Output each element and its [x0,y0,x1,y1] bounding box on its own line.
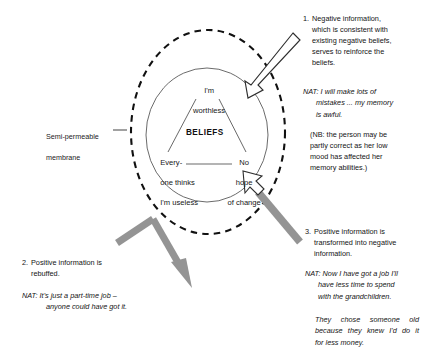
nat-3: NAT: Now I have got a job I'll have less… [305,268,429,302]
belief-right-line3: of change [227,198,260,207]
belief-right: No hope of change [218,148,266,209]
nat-3-line3: with the grandchildren. [318,292,391,301]
note-1-line4: serves to reinforce the [312,47,384,56]
nat-3-line1: Now I have got a job I'll [323,269,398,278]
nb-line1: (NB: the person may be [310,130,387,139]
note-3-number: 3. [305,227,311,238]
nat-2-line1: It's just a part-time job – [40,291,117,300]
nat-2-tag: NAT: [22,291,38,300]
nat-4-line2: because they knew I'd do it [315,325,419,336]
nat-4: They chose someone old because they knew… [315,314,419,348]
note-2: 2. Positive information is rebuffed. [22,258,142,280]
cbt-belief-diagram-page: { "diagram": { "title_semantic": "semi-p… [0,0,445,363]
note-3-line2: transformed into negative [314,238,396,247]
belief-top: I'm worthless [183,76,231,116]
arrow-negative-information-inward [245,33,300,98]
note-1: 1. Negative information, which is consis… [303,14,418,69]
belief-left-line3: I'm useless [160,198,198,207]
nat-1-line1: I will make lots of [321,87,377,96]
belief-left-line2: one thinks [160,178,195,187]
semi-permeable-membrane-label: Semi-permeable membrane [42,122,114,164]
nat-1-line3: is awful. [316,110,342,119]
nat-2: NAT: It's just a part-time job – anyone … [22,290,182,313]
note-1-line3: existing negative beliefs, [312,36,392,45]
belief-top-line2: worthless [193,106,225,115]
membrane-label-line1: Semi-permeable [46,132,99,141]
note-2-line2: rebuffed. [31,269,60,278]
nb-line2: partly correct as her low [310,141,387,150]
note-3-line3: information. [314,249,352,258]
nb-note: (NB: the person may be partly correct as… [310,130,428,174]
nat-4-line3: for less money. [315,337,419,348]
nat-3-tag: NAT: [305,269,321,278]
nat-1-tag: NAT: [303,87,319,96]
note-1-number: 1. [303,14,309,25]
nat-2-line2: anyone could have got it. [46,302,127,311]
nat-1: NAT: I will make lots of mistakes ... my… [303,86,421,120]
membrane-label-line2: membrane [46,153,80,162]
nat-3-line2: have less time to spend [318,280,395,289]
note-1-line5: beliefs. [312,58,335,67]
nat-1-line2: mistakes ... my memory [316,98,393,107]
note-2-line1: Positive information is [31,258,102,267]
note-1-line1: Negative information, [312,14,381,23]
note-3-line1: Positive information is [314,227,385,236]
note-3: 3. Positive information is transformed i… [305,227,425,260]
belief-left-line1: Every- [160,158,182,167]
nb-line4: memory abilities.) [310,163,367,172]
belief-top-line1: I'm [204,86,214,95]
nat-4-line1: They chose someone old [315,314,419,325]
beliefs-core-label: BELIEFS [186,128,224,139]
belief-right-line2: hope [236,178,253,187]
note-2-number: 2. [22,258,28,269]
nb-line3: mood has affected her [310,152,382,161]
belief-right-line1: No [239,158,249,167]
note-1-line2: which is consistent with [312,25,388,34]
belief-left: Every- one thinks I'm useless [156,148,214,209]
